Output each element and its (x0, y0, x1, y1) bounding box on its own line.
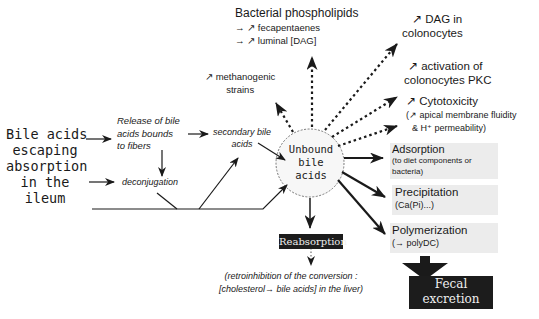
fate-adsorption: Adsorption (to diet components or bacter… (392, 144, 472, 177)
fecal-excretion-box: Fecal excretion (409, 276, 493, 309)
center-label: Unbound bile acids (282, 143, 340, 182)
effect-cytotoxicity: ↗ Cytotoxicity (↗ apical membrane fluidi… (406, 95, 517, 136)
effect-pkc: ↗ activation of colonocytes PKC (404, 60, 492, 87)
release-label: Release of bile acids bounds to fibers (117, 115, 180, 153)
retroinhibition-note: (retroinhibition of the conversion : [ch… (219, 270, 363, 296)
source-label: Bile acids escaping absorption in the il… (6, 126, 84, 206)
deconjugation-label: deconjugation (122, 177, 178, 187)
fate-polymerization: Polymerization (→ polyDC) (392, 224, 467, 250)
effect-dag: ↗ DAG in colonocytes (402, 13, 463, 40)
fate-precipitation: Precipitation (Ca(Pi)...) (395, 186, 458, 212)
reabsorption-box: Reabsorption (279, 234, 343, 249)
bile-acid-diagram: Bile acids escaping absorption in the il… (0, 0, 539, 319)
bacterial-phospholipids: Bacterial phospholipids → ↗ fecapentaene… (235, 7, 358, 47)
methanogenic-strains: ↗ methanogenic strains (205, 70, 275, 96)
secondary-bile-acids-label: secondary bile acids (213, 126, 271, 150)
